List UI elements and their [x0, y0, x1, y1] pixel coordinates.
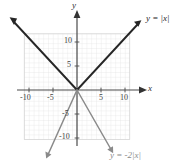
y-tick-label-neg5: -5	[62, 110, 69, 118]
x-tick-label-10: 10	[120, 94, 128, 102]
curve-label-y-equals-abs-x: y = |x|	[146, 14, 170, 23]
curve-label-y-equals-negative-2-abs-x: y = -2|x|	[110, 151, 141, 160]
y-tick-label-10: 10	[64, 37, 72, 45]
x-tick-label-5: 5	[99, 94, 103, 102]
y-axis-label: y	[72, 1, 76, 10]
x-tick-label-neg5: -5	[47, 94, 54, 102]
x-axis-label: x	[148, 84, 152, 93]
y-tick-label-neg10: -10	[59, 133, 70, 141]
y-tick-label-5: 5	[67, 61, 71, 69]
graph-figure: -10 -5 5 10 10 5 -5 -10 x y y = |x| y = …	[0, 0, 177, 167]
x-tick-label-neg10: -10	[20, 94, 31, 102]
